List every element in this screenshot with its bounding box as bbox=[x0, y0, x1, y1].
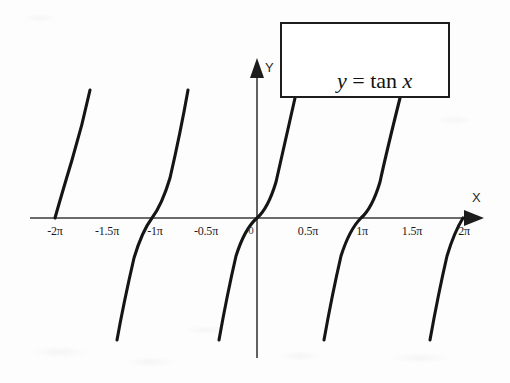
x-tick-label-pos-1_5pi: 1.5π bbox=[402, 224, 422, 239]
equation-label: y = tan x bbox=[304, 42, 412, 120]
x-tick-label-pos-2pi: 2π bbox=[458, 224, 470, 239]
equation-callout-box: y = tan x bbox=[280, 22, 450, 98]
y-axis-label: Y bbox=[265, 60, 274, 75]
origin-label: 0 bbox=[248, 224, 253, 236]
x-tick-label-neg-0_5pi: -0.5π bbox=[194, 224, 218, 239]
tangent-branch-pos1pi bbox=[324, 98, 400, 340]
tangent-function-figure: -2π -1.5π -1π -0.5π 0 0.5π 1π 1.5π 2π Y … bbox=[0, 0, 510, 383]
x-tick-label-neg-2pi: -2π bbox=[47, 224, 62, 239]
x-tick-label-neg-1_5pi: -1.5π bbox=[95, 224, 119, 239]
equation-lhs: y bbox=[337, 68, 347, 93]
equation-operator: = bbox=[347, 68, 370, 93]
x-tick-label-pos-0_5pi: 0.5π bbox=[298, 224, 318, 239]
x-axis-label: X bbox=[472, 190, 481, 205]
equation-argument: x bbox=[403, 68, 413, 93]
tangent-branch-neg1pi bbox=[117, 90, 188, 340]
tangent-curve-group bbox=[55, 90, 463, 340]
y-axis-arrowhead bbox=[250, 58, 264, 78]
equation-function: tan bbox=[370, 68, 397, 93]
tangent-branch-neg2pi bbox=[55, 90, 90, 218]
x-tick-label-neg-1pi: -1π bbox=[147, 224, 162, 239]
x-tick-label-pos-1pi: 1π bbox=[356, 224, 368, 239]
